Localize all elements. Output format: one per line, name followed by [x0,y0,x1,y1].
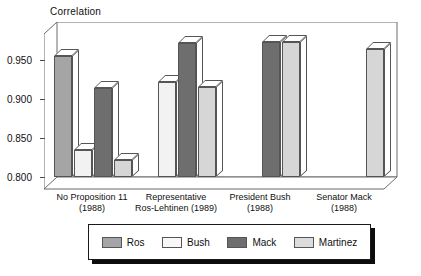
bar-side [384,42,391,177]
legend-item-martinez[interactable]: Martinez [294,237,357,248]
bar-ros-group-0 [54,56,72,177]
legend-item-mack[interactable]: Mack [227,237,276,248]
x-axis-labels: No Proposition 11(1988)RepresentativeRos… [44,192,404,222]
bar-face [282,42,300,177]
chart-legend: RosBushMackMartinez [88,224,371,260]
x-axis-label-line2: (1988) [297,203,391,214]
bars-layer [44,22,398,190]
legend-label-mack: Mack [252,237,276,248]
legend-label-ros: Ros [127,237,145,248]
y-axis-tick-labels: 0.8000.8500.9000.950 [0,22,40,190]
bar-face [158,82,176,177]
bar-martinez-group-1 [198,87,216,177]
y-axis-tick-1: 0.850 [7,133,32,144]
bar-face [198,87,216,177]
x-axis-label-0: No Proposition 11(1988) [45,192,139,214]
chart-root: Correlation 0.8000.8500.9000.950 No Prop… [0,0,421,276]
bar-face [178,43,196,177]
x-axis-label-line1: Representative [146,192,207,202]
y-axis-tick-2: 0.900 [7,94,32,105]
bar-martinez-group-2 [282,42,300,177]
x-axis-label-line1: No Proposition 11 [57,192,128,202]
bar-face [54,56,72,177]
bar-side [216,80,223,177]
x-axis-label-2: President Bush(1988) [213,192,307,214]
bar-face [262,42,280,177]
legend-item-ros[interactable]: Ros [102,237,145,248]
bar-mack-group-2 [262,42,280,177]
bar-face [94,88,112,177]
plot-area [44,22,398,190]
y-axis-title: Correlation [50,6,101,17]
bar-martinez-group-0 [114,160,132,177]
legend-label-bush: Bush [187,237,210,248]
x-axis-label-line1: President Bush [229,192,290,202]
legend-swatch-bush [162,237,182,248]
y-axis-tick-3: 0.950 [7,55,32,66]
legend-swatch-martinez [294,237,314,248]
x-axis-label-line2: (1988) [45,203,139,214]
x-axis-label-line1: Senator Mack [316,192,372,202]
bar-bush-group-1 [158,82,176,177]
x-axis-label-line2: (1988) [213,203,307,214]
bar-bush-group-0 [74,150,92,177]
x-axis-label-1: RepresentativeRos-Lehtinen (1989) [129,192,223,214]
x-axis-label-3: Senator Mack(1988) [297,192,391,214]
x-axis-label-line2: Ros-Lehtinen (1989) [129,203,223,214]
legend-label-martinez: Martinez [319,237,357,248]
legend-swatch-ros [102,237,122,248]
bar-face [366,49,384,177]
bar-side [300,35,307,177]
bar-face [74,150,92,177]
bar-face [114,160,132,177]
bar-mack-group-0 [94,88,112,177]
bar-martinez-group-3 [366,49,384,177]
y-axis-tick-0: 0.800 [7,172,32,183]
bar-mack-group-1 [178,43,196,177]
legend-item-bush[interactable]: Bush [162,237,210,248]
legend-swatch-mack [227,237,247,248]
